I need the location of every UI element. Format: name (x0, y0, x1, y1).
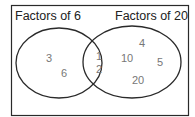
set-a-circle (16, 28, 102, 98)
set-b-element: 5 (157, 56, 163, 68)
intersection-element: 1 (96, 50, 102, 62)
set-b-element: 10 (121, 52, 133, 64)
set-a-element: 3 (46, 52, 52, 64)
set-a-label: Factors of 6 (15, 9, 81, 23)
intersection-element: 2 (96, 63, 102, 75)
set-b-label: Factors of 20 (115, 9, 188, 23)
set-b-element: 4 (139, 37, 145, 49)
venn-diagram: Factors of 6 Factors of 20 3 6 1 2 4 10 … (0, 0, 195, 117)
set-b-element: 20 (132, 74, 144, 86)
set-a-element: 6 (61, 67, 67, 79)
